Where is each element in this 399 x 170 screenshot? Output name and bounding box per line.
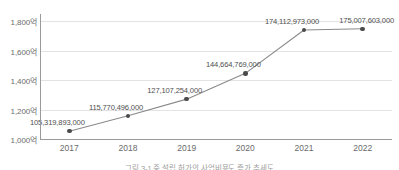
data-point-label: 174,112,973,000 xyxy=(265,17,319,26)
series-polyline xyxy=(69,29,362,131)
x-axis-tick-label: 2019 xyxy=(177,143,196,153)
data-point-marker[interactable] xyxy=(67,129,71,133)
y-axis-tick-label: 1,800억 xyxy=(11,16,37,27)
data-point-label: 105,319,893,000 xyxy=(30,118,85,127)
figure-caption: 그림 3-1 중 설립 허가의 사업비용도 증가 추세도 xyxy=(0,162,399,170)
y-axis-tick-label: 1,200억 xyxy=(11,104,37,115)
data-point-label: 144,664,769,000 xyxy=(206,60,261,69)
data-point-label: 115,770,496,000 xyxy=(89,103,143,112)
x-axis-tick-label: 2021 xyxy=(295,143,314,153)
y-axis-tick-label: 1,400억 xyxy=(11,75,37,86)
y-axis-tick-label: 1,000억 xyxy=(11,134,37,145)
x-axis-tick-label: 2022 xyxy=(353,143,372,153)
y-axis-tick-label: 1,600억 xyxy=(11,45,37,56)
plot-area: 105,319,893,000115,770,496,000127,107,25… xyxy=(40,14,392,139)
data-point-marker[interactable] xyxy=(243,71,247,75)
data-point-marker[interactable] xyxy=(360,27,364,31)
chart-figure: 1,000억1,200억1,400억1,600억1,800억 105,319,8… xyxy=(0,0,399,170)
x-axis-tick-labels: 201720182019202020212022 xyxy=(40,143,392,157)
y-axis-line xyxy=(40,14,41,140)
y-axis-tick-labels: 1,000억1,200억1,400억1,600억1,800억 xyxy=(0,0,37,170)
x-axis-tick-label: 2018 xyxy=(119,143,138,153)
x-axis-line xyxy=(40,139,392,140)
x-axis-tick-label: 2017 xyxy=(60,143,79,153)
x-axis-tick-label: 2020 xyxy=(236,143,255,153)
series-line xyxy=(40,14,392,139)
data-point-label: 175,007,603,000 xyxy=(339,16,394,25)
data-point-label: 127,107,254,000 xyxy=(147,86,202,95)
